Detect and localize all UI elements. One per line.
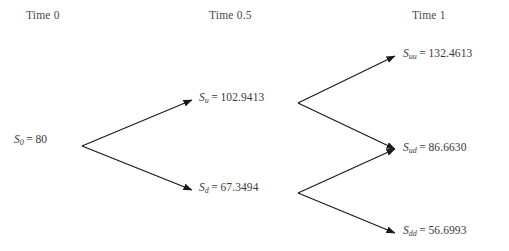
edge-su-suu [298, 56, 395, 103]
node-value-sdd: 56.6993 [428, 224, 466, 236]
node-subscript-suu: uu [409, 52, 417, 61]
edge-s0-su [82, 100, 192, 146]
edge-s0-sd [82, 146, 192, 190]
node-equals-s0: = [24, 133, 36, 145]
node-equals-sud: = [417, 141, 429, 153]
node-subscript-sdd: dd [409, 229, 417, 238]
tree-edges [0, 0, 509, 251]
edge-sd-sdd [298, 193, 395, 233]
node-label-su: Su=102.9413 [199, 91, 264, 105]
edge-su-sud [298, 103, 395, 149]
node-subscript-sud: ud [409, 146, 417, 155]
node-equals-suu: = [417, 47, 429, 59]
node-label-sud: Sud=86.6630 [403, 141, 467, 155]
node-value-suu: 132.4613 [428, 47, 472, 59]
edge-sd-sud [298, 149, 395, 193]
node-value-s0: 80 [35, 133, 47, 145]
node-label-s0: S0=80 [14, 133, 47, 147]
node-label-sdd: Sdd=56.6993 [403, 224, 467, 238]
node-value-sud: 86.6630 [428, 141, 466, 153]
node-label-sd: Sd=67.3494 [199, 181, 259, 195]
node-equals-sd: = [209, 181, 221, 193]
node-label-suu: Suu=132.4613 [403, 47, 472, 61]
node-equals-su: = [209, 91, 221, 103]
node-value-su: 102.9413 [220, 91, 264, 103]
node-value-sd: 67.3494 [220, 181, 258, 193]
binomial-tree-figure: Time 0 Time 0.5 Time 1 S0=80 Su=102.9413… [0, 0, 509, 251]
node-equals-sdd: = [417, 224, 429, 236]
